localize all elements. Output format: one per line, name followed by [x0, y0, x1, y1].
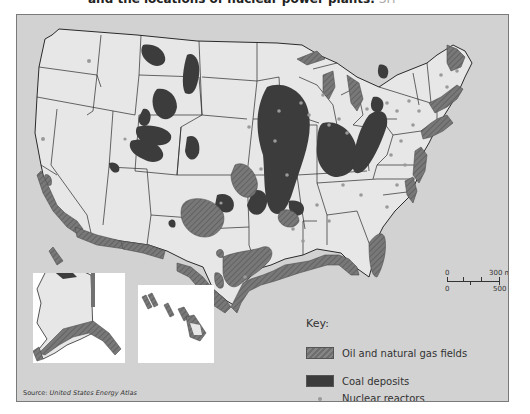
legend-label: Nuclear reactors: [342, 393, 425, 402]
scale-miles-zero: 0: [445, 269, 449, 277]
alaska-map: [33, 273, 125, 363]
legend-item-coal: Coal deposits: [306, 375, 409, 387]
scale-km-zero: 0: [445, 285, 449, 293]
scale-km-label: 500 km: [493, 285, 509, 293]
scale-miles-label: 300 mi: [489, 269, 509, 277]
scale-tick: [481, 277, 482, 281]
scale-line: [447, 281, 499, 282]
scale-tick: [463, 277, 464, 281]
scale-tick: [499, 277, 500, 285]
hawaii-inset: [138, 285, 214, 363]
caption-text: and the locations of nuclear power plant…: [88, 0, 375, 6]
hawaii-map: [138, 285, 214, 363]
source-prefix: Source:: [23, 389, 48, 397]
figure-caption: and the locations of nuclear power plant…: [88, 0, 395, 6]
alaska-inset: [33, 273, 125, 363]
legend-title: Key:: [306, 317, 329, 330]
map-frame: 0 300 mi 0 500 km Key: Oil and natural g…: [16, 14, 509, 402]
scale-bar: 0 300 mi 0 500 km: [441, 269, 509, 299]
source-name: United States Energy Atlas: [50, 389, 137, 397]
legend-label: Coal deposits: [342, 376, 409, 387]
nuclear-dot-icon: [318, 397, 322, 401]
legend-item-oil-gas: Oil and natural gas fields: [306, 347, 467, 359]
map-source: Source: United States Energy Atlas: [23, 389, 137, 397]
scale-tick: [447, 277, 448, 281]
oil-gas-swatch-icon: [306, 347, 334, 359]
caption-reference: SH: [379, 0, 396, 6]
legend-item-nuclear: Nuclear reactors: [306, 393, 425, 402]
scale-tick: [470, 281, 471, 285]
legend-label: Oil and natural gas fields: [342, 348, 467, 359]
coal-swatch-icon: [306, 375, 334, 387]
